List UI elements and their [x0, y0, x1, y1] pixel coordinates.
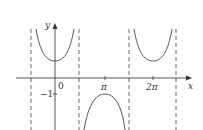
x-axis-label: x	[188, 81, 193, 91]
asymptotes	[31, 29, 176, 130]
branch-3	[134, 29, 172, 61]
x-axis-arrow-icon	[186, 76, 192, 81]
pi-label: π	[100, 82, 108, 92]
branch-2	[84, 94, 125, 130]
origin-label: 0	[58, 81, 64, 91]
curves	[36, 29, 172, 130]
axes	[16, 28, 190, 130]
two-pi-label: 2π	[145, 82, 159, 92]
neg-one-label: −1	[40, 89, 53, 99]
y-axis-arrow-icon	[53, 23, 58, 29]
secant-graph: y x 0 −1 π 2π	[0, 0, 203, 130]
y-axis-label: y	[44, 20, 51, 30]
